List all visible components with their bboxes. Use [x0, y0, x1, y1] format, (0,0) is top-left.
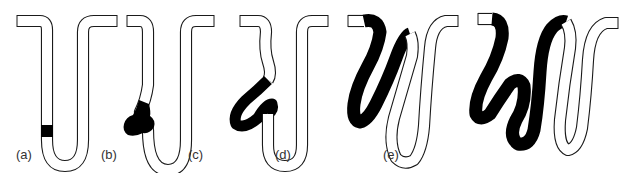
tube-folding-diagram: (a) (b) (c) (d) (e) [0, 0, 634, 173]
ink-blob [124, 100, 155, 136]
panel-label-a: (a) [16, 147, 32, 162]
panel-c [235, 15, 328, 166]
diagram-canvas [0, 0, 634, 173]
panel-label-b: (b) [101, 147, 117, 162]
panel-e [476, 13, 618, 150]
panel-label-d: (d) [275, 147, 291, 162]
panel-d [348, 15, 458, 163]
panel-label-c: (c) [188, 147, 203, 162]
panel-a [17, 15, 117, 166]
panel-label-e: (e) [383, 147, 399, 162]
